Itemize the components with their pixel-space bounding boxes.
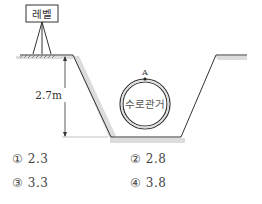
choice-number: ① (12, 152, 24, 166)
choice-value: 2.8 (146, 152, 167, 166)
choice-1[interactable]: ① 2.3 (12, 152, 48, 166)
level-label: 레벨 (32, 8, 52, 20)
choice-number: ③ (12, 176, 24, 190)
pipe-label: 수로관거 (125, 98, 165, 110)
pipe: 수로관거 A (120, 68, 170, 129)
point-a-marker (143, 77, 146, 80)
choice-number: ④ (130, 176, 142, 190)
choice-value: 3.8 (146, 176, 167, 190)
level-instrument: 레벨 (26, 5, 58, 54)
depth-dimension (62, 56, 108, 137)
point-a-label: A (141, 68, 148, 77)
trench-diagram: 레벨 2.7m 수로관거 A (0, 0, 262, 204)
choice-value: 2.3 (28, 152, 49, 166)
choice-4[interactable]: ④ 3.8 (130, 176, 166, 190)
choice-number: ② (130, 152, 142, 166)
choice-value: 3.3 (28, 176, 49, 190)
choice-3[interactable]: ③ 3.3 (12, 176, 48, 190)
depth-label: 2.7m (35, 89, 62, 101)
choice-2[interactable]: ② 2.8 (130, 152, 166, 166)
